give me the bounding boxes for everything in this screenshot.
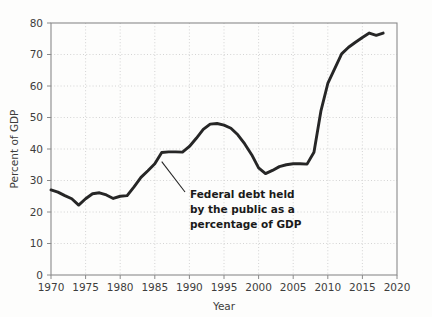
x-tick-label: 1985: [141, 281, 168, 293]
x-tick-label: 2000: [245, 281, 272, 293]
annotation-line: by the public as a: [190, 203, 295, 215]
y-tick-label: 70: [30, 48, 43, 60]
x-tick-label: 1990: [176, 281, 203, 293]
y-tick-label: 20: [30, 206, 43, 218]
x-tick-label: 2015: [349, 281, 376, 293]
y-tick-label: 50: [30, 111, 43, 123]
x-tick-label: 1975: [72, 281, 99, 293]
x-axis: 1970197519801985199019952000200520102015…: [38, 275, 411, 293]
y-tick-label: 40: [30, 143, 43, 155]
y-tick-label: 30: [30, 174, 43, 186]
x-tick-label: 2020: [384, 281, 411, 293]
y-tick-label: 80: [30, 17, 43, 29]
annotation-line: percentage of GDP: [190, 218, 302, 230]
y-tick-label: 0: [36, 269, 43, 281]
x-axis-title: Year: [212, 300, 236, 312]
annotation-label: Federal debt heldby the public as aperce…: [190, 188, 302, 230]
x-tick-label: 1980: [107, 281, 134, 293]
debt-to-gdp-line-chart: 0102030405060708019701975198019851990199…: [0, 0, 432, 317]
x-tick-label: 2005: [280, 281, 307, 293]
x-tick-label: 1970: [38, 281, 65, 293]
annotation-line: Federal debt held: [190, 188, 295, 200]
data-series-line: [51, 33, 383, 205]
chart-figure: 0102030405060708019701975198019851990199…: [0, 0, 432, 317]
y-tick-label: 60: [30, 80, 43, 92]
gridlines: [51, 23, 397, 275]
y-axis: 01020304050607080: [30, 17, 51, 281]
x-tick-label: 2010: [314, 281, 341, 293]
annotation-leader-line: [162, 162, 185, 192]
y-tick-label: 10: [30, 237, 43, 249]
x-tick-label: 1995: [211, 281, 238, 293]
y-axis-title: Percent of GDP: [8, 110, 20, 189]
